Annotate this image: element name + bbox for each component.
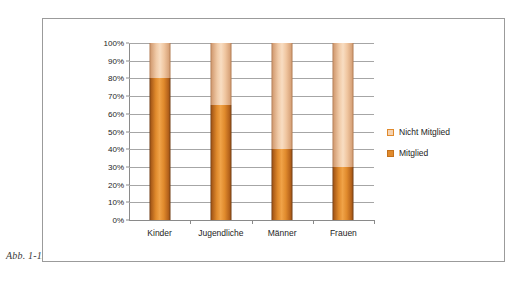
legend-swatch-mitglied-icon [387,150,394,157]
legend-label-mitglied: Mitglied [399,148,428,158]
bar-segment-mitglied[interactable] [272,149,293,220]
bar-segment-mitglied[interactable] [210,105,231,220]
x-axis-tick-mark [252,220,253,224]
bar-segment-mitglied[interactable] [333,167,354,220]
bar-segment-nicht-mitglied[interactable] [272,43,293,149]
y-axis-tick-label: 70% [108,92,124,101]
y-axis-tick-label: 80% [108,74,124,83]
category-slot-kinder: Kinder [129,43,190,220]
bar-segment-mitglied[interactable] [149,78,170,220]
y-axis-tick-label: 30% [108,162,124,171]
legend-item-nicht-mitglied[interactable]: Nicht Mitglied [387,127,450,137]
x-axis-label-jugendliche: Jugendliche [198,228,243,238]
legend-item-mitglied[interactable]: Mitglied [387,148,450,158]
chart-frame: 100%90%80%70%60%50%40%30%20%10%0% Kinder… [42,18,505,262]
x-axis-tick-mark [190,220,191,224]
y-axis-tick-label: 90% [108,56,124,65]
bar-segment-nicht-mitglied[interactable] [210,43,231,105]
y-axis-tick-label: 60% [108,109,124,118]
x-axis-label-männer: Männer [268,228,297,238]
category-slot-jugendliche: Jugendliche [190,43,251,220]
stacked-bar-männer[interactable] [272,43,293,220]
stacked-bar-frauen[interactable] [333,43,354,220]
y-axis-tick-label: 10% [108,198,124,207]
bar-segment-nicht-mitglied[interactable] [333,43,354,167]
bar-segment-nicht-mitglied[interactable] [149,43,170,78]
legend-swatch-nicht-mitglied-icon [387,129,394,136]
y-axis-tick-label: 0% [112,216,124,225]
y-axis-tick-label: 40% [108,145,124,154]
x-axis-label-kinder: Kinder [147,228,172,238]
x-axis-label-frauen: Frauen [330,228,357,238]
y-axis-tick-label: 50% [108,127,124,136]
legend-label-nicht-mitglied: Nicht Mitglied [399,127,450,137]
category-slot-frauen: Frauen [313,43,374,220]
y-axis-tick-label: 20% [108,180,124,189]
x-axis-tick-mark [313,220,314,224]
plot-area: 100%90%80%70%60%50%40%30%20%10%0% Kinder… [129,43,374,220]
stacked-bar-kinder[interactable] [149,43,170,220]
x-axis-tick-mark [374,220,375,224]
chart-legend: Nicht Mitglied Mitglied [387,127,450,169]
y-axis-tick-label: 100% [104,39,124,48]
stacked-bar-jugendliche[interactable] [210,43,231,220]
category-slot-männer: Männer [252,43,313,220]
